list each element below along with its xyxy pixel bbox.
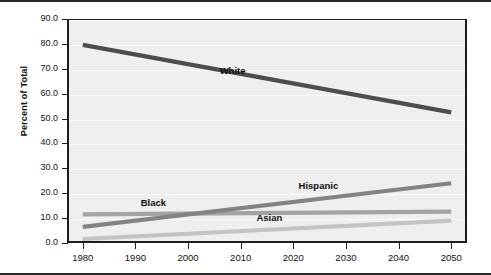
y-axis-tick-label: 60.0 bbox=[14, 88, 58, 98]
x-axis-tick bbox=[241, 243, 242, 249]
chart-figure: Percent of Total 0.010.020.030.040.050.0… bbox=[0, 0, 491, 275]
y-axis-tick-label: 20.0 bbox=[14, 187, 58, 197]
y-axis-tick bbox=[62, 168, 68, 169]
y-axis-tick bbox=[62, 243, 68, 244]
series-label-asian: Asian bbox=[256, 212, 282, 223]
x-axis-tick-label: 2000 bbox=[164, 252, 212, 263]
y-axis-tick-label: 10.0 bbox=[14, 212, 58, 222]
y-axis-tick bbox=[62, 94, 68, 95]
y-axis-tick bbox=[62, 218, 68, 219]
x-axis-tick bbox=[346, 243, 347, 249]
y-axis-tick bbox=[62, 143, 68, 144]
x-axis-tick bbox=[83, 243, 84, 249]
y-axis-tick-label: 50.0 bbox=[14, 113, 58, 123]
y-axis-tick bbox=[62, 19, 68, 20]
top-divider bbox=[0, 0, 491, 2]
plot-area bbox=[67, 19, 467, 243]
x-axis-tick-label: 2010 bbox=[217, 252, 265, 263]
x-axis-tick-label: 1990 bbox=[111, 252, 159, 263]
y-axis-tick bbox=[62, 44, 68, 45]
x-axis-tick-label: 2030 bbox=[322, 252, 370, 263]
y-axis-tick bbox=[62, 69, 68, 70]
x-axis-tick-label: 2040 bbox=[375, 252, 423, 263]
y-axis-tick bbox=[62, 193, 68, 194]
x-axis-tick bbox=[135, 243, 136, 249]
y-axis-tick-label: 80.0 bbox=[14, 38, 58, 48]
x-axis-tick bbox=[188, 243, 189, 249]
gridline bbox=[69, 20, 465, 21]
y-axis-tick-label: 70.0 bbox=[14, 63, 58, 73]
x-axis-tick-label: 2050 bbox=[427, 252, 475, 263]
gridline bbox=[69, 70, 465, 71]
x-axis-tick-label: 2020 bbox=[269, 252, 317, 263]
gridline bbox=[69, 169, 465, 170]
gridline bbox=[69, 194, 465, 195]
y-axis-tick-label: 30.0 bbox=[14, 162, 58, 172]
y-axis-tick-label: 40.0 bbox=[14, 137, 58, 147]
x-axis-tick bbox=[399, 243, 400, 249]
gridline bbox=[69, 144, 465, 145]
x-axis-tick-label: 1980 bbox=[59, 252, 107, 263]
gridline bbox=[69, 45, 465, 46]
x-axis-tick bbox=[451, 243, 452, 249]
series-label-white: White bbox=[220, 65, 246, 76]
y-axis-tick-label: 0.0 bbox=[14, 237, 58, 247]
series-label-hispanic: Hispanic bbox=[299, 180, 339, 191]
y-axis-tick-label: 90.0 bbox=[14, 13, 58, 23]
gridline bbox=[69, 120, 465, 121]
series-label-black: Black bbox=[141, 197, 166, 208]
y-axis-tick bbox=[62, 119, 68, 120]
gridline bbox=[69, 95, 465, 96]
x-axis-tick bbox=[293, 243, 294, 249]
